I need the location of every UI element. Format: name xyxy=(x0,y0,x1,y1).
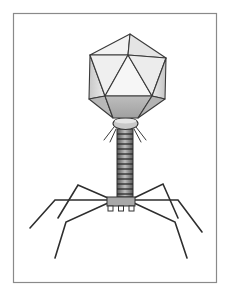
collar xyxy=(113,118,138,130)
bacteriophage-illustration xyxy=(0,0,226,290)
tail-sheath xyxy=(117,129,133,197)
baseplate xyxy=(107,197,135,211)
